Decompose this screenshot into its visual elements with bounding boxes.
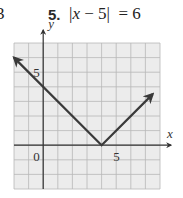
origin-label: 0 [33, 149, 40, 164]
x-tick-label: 5 [113, 149, 120, 164]
graph: xy055 [0, 0, 183, 198]
y-axis-label: y [46, 16, 54, 31]
x-axis-label: x [166, 126, 173, 141]
